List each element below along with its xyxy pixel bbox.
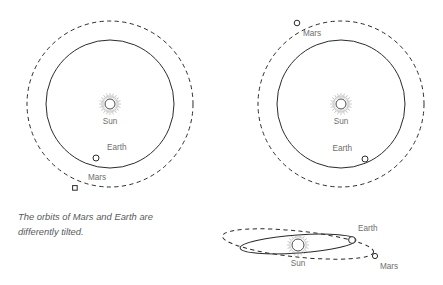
earth-marker-left — [93, 155, 99, 161]
earth-marker-right — [362, 156, 368, 162]
panel-edge-on-view: Sun Earth Mars — [221, 223, 398, 271]
earth-label-edge: Earth — [358, 224, 378, 233]
sun-icon — [99, 93, 121, 115]
diagram-canvas: Sun Earth Mars Sun Earth Mars — [0, 0, 443, 285]
panel-right-top-view: Sun Earth Mars — [258, 20, 424, 187]
sun-label-edge: Sun — [291, 259, 306, 268]
mars-label-right: Mars — [303, 29, 321, 38]
mars-marker-right — [294, 20, 300, 26]
sun-label-right: Sun — [334, 117, 349, 126]
panel-left-top-view: Sun Earth Mars — [27, 21, 193, 190]
earth-marker-edge — [349, 237, 356, 244]
orbit-diagram-figure: Sun Earth Mars Sun Earth Mars — [0, 0, 443, 285]
figure-caption: The orbits of Mars and Earth are differe… — [18, 209, 208, 239]
mars-marker-edge — [372, 253, 377, 258]
sun-label-left: Sun — [103, 117, 118, 126]
mars-marker-left — [73, 186, 78, 191]
earth-label-right: Earth — [332, 144, 352, 153]
sun-icon — [330, 93, 352, 115]
mars-label-edge: Mars — [380, 262, 398, 271]
mars-label-left: Mars — [88, 173, 106, 182]
earth-label-left: Earth — [107, 143, 127, 152]
